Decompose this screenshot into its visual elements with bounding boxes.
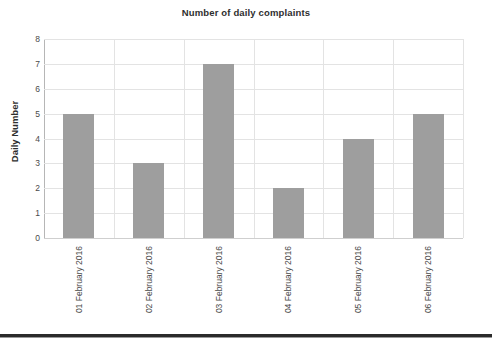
y-axis-tick-label: 8: [10, 35, 40, 44]
gridline-vertical: [184, 39, 185, 238]
y-axis-tick-label: 3: [10, 159, 40, 168]
x-axis-tick: 02 February 2016: [114, 242, 184, 332]
x-axis-tick: 04 February 2016: [254, 242, 324, 332]
x-axis-tick-label: 01 February 2016: [74, 246, 84, 336]
y-axis-tick-label: 0: [10, 234, 40, 243]
bar: [63, 114, 94, 238]
x-axis-tick: 06 February 2016: [393, 242, 463, 332]
y-axis-tick-label: 1: [10, 209, 40, 218]
y-axis-tick-labels: 012345678: [4, 0, 40, 348]
gridline-vertical: [463, 39, 464, 238]
y-axis-tick-label: 7: [10, 60, 40, 69]
bar-chart-figure: Number of daily complaints Daily Number …: [0, 0, 492, 348]
y-axis-tick-label: 5: [10, 110, 40, 119]
bar: [203, 64, 234, 238]
plot-area: [44, 39, 463, 238]
x-axis-tick: 05 February 2016: [323, 242, 393, 332]
gridline-vertical: [254, 39, 255, 238]
gridline-vertical: [323, 39, 324, 238]
x-axis-tick: 03 February 2016: [184, 242, 254, 332]
bar: [273, 188, 304, 238]
y-axis-tick-label: 4: [10, 135, 40, 144]
chart-title: Number of daily complaints: [0, 7, 492, 18]
gridline-vertical: [114, 39, 115, 238]
x-axis-line: [44, 238, 463, 239]
page-edge-rule-shadow: [0, 337, 492, 338]
y-axis-tick-label: 6: [10, 85, 40, 94]
x-axis-tick-label: 03 February 2016: [214, 246, 224, 336]
bar: [133, 163, 164, 238]
gridline-vertical: [393, 39, 394, 238]
bar: [413, 114, 444, 238]
x-axis-tick-label: 05 February 2016: [353, 246, 363, 336]
x-axis-tick-label: 06 February 2016: [423, 246, 433, 336]
x-axis-tick-label: 02 February 2016: [144, 246, 154, 336]
y-axis-tick-label: 2: [10, 184, 40, 193]
x-axis-tick-labels: 01 February 201602 February 201603 Febru…: [44, 242, 463, 337]
x-axis-tick: 01 February 2016: [44, 242, 114, 332]
bar: [343, 139, 374, 239]
x-axis-tick-label: 04 February 2016: [283, 246, 293, 336]
